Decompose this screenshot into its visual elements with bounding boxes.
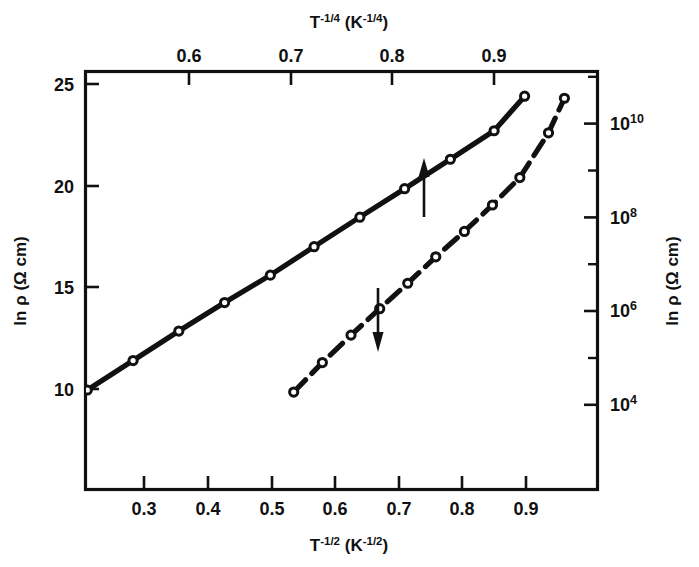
data-point-marker <box>401 185 409 193</box>
bottom-tick-label: 0.8 <box>449 499 474 519</box>
top-tick-label: 0.7 <box>278 46 303 66</box>
top-axis-unit-base: K <box>350 13 363 32</box>
down-arrow-annotation <box>373 288 384 352</box>
right-tick-label-mantissa: 10 <box>610 114 630 134</box>
svg-text:106: 106 <box>610 299 637 321</box>
data-point-marker <box>310 243 318 251</box>
svg-text:108: 108 <box>610 206 637 228</box>
bottom-tick-label: 0.9 <box>513 499 538 519</box>
plot-svg: T-1/4 (K-1/4) 0.6 0.7 0.8 0.9 0.3 0.4 0.… <box>0 0 699 567</box>
figure-container: T-1/4 (K-1/4) 0.6 0.7 0.8 0.9 0.3 0.4 0.… <box>0 0 699 567</box>
data-point-marker <box>404 279 412 287</box>
right-axis-ticks <box>584 77 598 405</box>
data-point-marker <box>221 298 229 306</box>
top-axis-title: T-1/4 (K-1/4) <box>310 12 388 32</box>
top-axis-unit-exponent: -1/4 <box>363 12 383 24</box>
data-point-marker <box>290 388 298 396</box>
data-point-marker <box>544 129 552 137</box>
left-tick-label: 15 <box>54 278 74 298</box>
bottom-axis-title: T-1/2 (K-1/2) <box>310 535 388 555</box>
left-tick-label: 25 <box>54 75 74 95</box>
data-point-marker <box>318 358 326 366</box>
bottom-tick-label: 0.5 <box>259 499 284 519</box>
left-axis-ticks <box>86 84 100 389</box>
right-tick-label-exponent: 8 <box>630 206 637 220</box>
top-axis-ticks <box>189 72 494 86</box>
data-point-marker <box>460 227 468 235</box>
right-axis-title-text: ln ρ (Ω cm) <box>663 236 682 325</box>
series-dashed-line <box>290 94 569 396</box>
top-tick-label: 0.6 <box>176 46 201 66</box>
bottom-tick-label: 0.6 <box>322 499 347 519</box>
bottom-axis-unit-exponent: -1/2 <box>363 535 383 547</box>
right-tick-label-exponent: 10 <box>630 112 644 126</box>
left-axis-tick-labels: 25 20 15 10 <box>54 75 74 400</box>
bottom-tick-label: 0.3 <box>131 499 156 519</box>
bottom-axis-ticks <box>144 476 526 490</box>
data-point-marker <box>560 94 568 102</box>
bottom-axis-unit-base: K <box>350 536 363 555</box>
svg-text:104: 104 <box>610 393 637 415</box>
right-tick-label-exponent: 6 <box>630 299 637 313</box>
left-tick-label: 10 <box>54 380 74 400</box>
svg-text:1010: 1010 <box>610 112 644 134</box>
svg-text:T-1/4 (K-1/4): T-1/4 (K-1/4) <box>310 12 388 32</box>
left-axis-title: ln ρ (Ω cm) <box>11 236 30 325</box>
data-point-marker <box>347 331 355 339</box>
plot-frame <box>86 72 598 490</box>
data-point-marker <box>175 327 183 335</box>
up-arrow-annotation <box>419 158 430 217</box>
bottom-axis-tick-labels: 0.3 0.4 0.5 0.6 0.7 0.8 0.9 <box>131 499 538 519</box>
right-axis-title: ln ρ (Ω cm) <box>663 236 682 325</box>
data-point-marker <box>521 92 529 100</box>
right-axis-tick-labels: 104 106 108 1010 <box>610 112 644 415</box>
data-point-marker <box>432 253 440 261</box>
top-tick-label: 0.8 <box>379 46 404 66</box>
top-axis-tick-labels: 0.6 0.7 0.8 0.9 <box>176 46 506 66</box>
right-tick-label-mantissa: 10 <box>610 301 630 321</box>
svg-text:T-1/2 (K-1/2): T-1/2 (K-1/2) <box>310 535 388 555</box>
data-point-marker <box>266 271 274 279</box>
data-point-marker <box>356 213 364 221</box>
data-point-marker <box>490 127 498 135</box>
top-axis-title-base: T <box>310 13 321 32</box>
data-point-marker <box>129 356 137 364</box>
bottom-tick-label: 0.4 <box>195 499 220 519</box>
bottom-axis-title-base: T <box>310 536 321 555</box>
series-solid-line <box>83 92 529 394</box>
data-point-marker <box>446 155 454 163</box>
left-axis-title-text: ln ρ (Ω cm) <box>11 236 30 325</box>
right-tick-label-mantissa: 10 <box>610 208 630 228</box>
bottom-tick-label: 0.7 <box>386 499 411 519</box>
bottom-axis-title-exponent: -1/2 <box>320 535 340 547</box>
data-point-marker <box>488 201 496 209</box>
caption-bleed-strip <box>0 560 699 567</box>
top-axis-title-exponent: -1/4 <box>320 12 340 24</box>
top-tick-label: 0.9 <box>481 46 506 66</box>
data-point-marker <box>516 173 524 181</box>
left-tick-label: 20 <box>54 177 74 197</box>
right-tick-label-mantissa: 10 <box>610 395 630 415</box>
right-tick-label-exponent: 4 <box>630 393 637 407</box>
